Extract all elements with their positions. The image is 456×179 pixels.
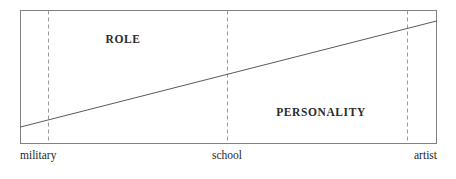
axis-label-school: school (167, 150, 287, 162)
region-label-role: ROLE (0, 34, 246, 46)
diagram-canvas: ROLE PERSONALITY military school artist (0, 0, 456, 179)
region-label-personality: PERSONALITY (198, 107, 444, 119)
axis-label-artist: artist (317, 150, 437, 162)
axis-label-military: military (20, 150, 56, 162)
diagram-frame (21, 11, 437, 144)
